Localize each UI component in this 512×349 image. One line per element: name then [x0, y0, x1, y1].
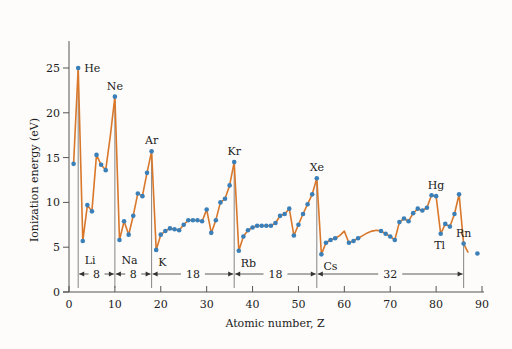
arrow-right-icon [228, 272, 233, 277]
data-point [273, 221, 278, 226]
data-point [131, 214, 136, 219]
data-point [438, 231, 443, 236]
arrow-left-icon [79, 272, 84, 277]
data-point [218, 200, 223, 205]
data-point [90, 209, 95, 214]
data-point [214, 218, 219, 223]
data-point [420, 208, 425, 213]
data-point [241, 234, 246, 239]
data-point [172, 227, 177, 232]
data-point [397, 220, 402, 225]
data-point [448, 224, 453, 229]
element-label-hg: Hg [428, 179, 445, 192]
ionization-energy-chart: 05101520250102030405060708090 88181832 H… [0, 0, 512, 349]
data-point [195, 218, 200, 223]
data-point [319, 252, 324, 257]
element-labels: HeNeArKrXeHgRnLiNaKRbCsTl [84, 62, 471, 273]
data-point [80, 239, 85, 244]
data-point [255, 223, 260, 228]
period-span: 32 [318, 268, 463, 281]
data-point [113, 94, 118, 99]
arrow-right-icon [458, 272, 463, 277]
data-point [333, 236, 338, 241]
data-point [140, 194, 145, 199]
x-tick-label: 10 [108, 298, 122, 311]
data-point [296, 223, 301, 228]
data-point [177, 228, 182, 233]
data-point [71, 162, 76, 167]
data-point [315, 176, 320, 181]
x-tick-label: 0 [66, 298, 73, 311]
period-span-label: 18 [186, 268, 200, 281]
data-point [250, 225, 255, 230]
data-point [117, 238, 122, 243]
data-point [223, 197, 228, 202]
data-point [103, 168, 108, 173]
data-point [443, 222, 448, 227]
data-point [429, 193, 434, 198]
data-point [126, 232, 131, 237]
period-span: 18 [235, 268, 316, 281]
data-point [475, 251, 480, 256]
data-point [282, 212, 287, 217]
data-point [305, 202, 310, 207]
element-label-tl: Tl [434, 239, 445, 252]
data-point [259, 223, 264, 228]
data-point [145, 171, 150, 176]
element-label-na: Na [121, 254, 138, 267]
x-tick-label: 80 [429, 298, 443, 311]
x-tick-label: 30 [200, 298, 214, 311]
data-point [393, 238, 398, 243]
period-span-label: 18 [269, 268, 283, 281]
data-point [402, 216, 407, 221]
data-point [287, 206, 292, 211]
element-label-xe: Xe [310, 161, 324, 174]
x-tick-label: 50 [291, 298, 305, 311]
data-point [434, 194, 439, 199]
period-span: 8 [79, 268, 114, 281]
element-label-cs: Cs [323, 260, 337, 273]
period-span-label: 32 [383, 268, 397, 281]
element-label-kr: Kr [227, 145, 241, 158]
arrow-left-icon [318, 272, 323, 277]
data-point [154, 248, 159, 253]
data-point [411, 211, 416, 216]
x-axis-label: Atomic number, Z [224, 317, 325, 330]
data-point [292, 233, 297, 238]
data-point [163, 229, 168, 234]
y-tick-label: 10 [46, 196, 60, 209]
x-tick-label: 40 [246, 298, 260, 311]
data-point [236, 248, 241, 253]
element-label-ne: Ne [107, 80, 123, 93]
y-tick-label: 20 [46, 107, 60, 120]
data-point [301, 212, 306, 217]
data-point [246, 228, 251, 233]
data-point [310, 192, 315, 197]
data-point [425, 205, 430, 210]
data-point [328, 238, 333, 243]
data-point [94, 153, 99, 158]
data-point [324, 240, 329, 245]
period-span-label: 8 [93, 268, 100, 281]
x-tick-label: 70 [383, 298, 397, 311]
y-tick-label: 15 [46, 152, 60, 165]
data-point [452, 212, 457, 217]
y-tick-label: 0 [53, 286, 60, 299]
x-tick-label: 20 [154, 298, 168, 311]
element-label-li: Li [85, 254, 96, 267]
arrow-right-icon [109, 272, 114, 277]
data-point [264, 223, 269, 228]
data-point [461, 241, 466, 246]
y-tick-label: 5 [53, 241, 60, 254]
data-point [351, 239, 356, 244]
data-point [200, 219, 205, 224]
period-span: 18 [153, 268, 234, 281]
data-point [122, 219, 127, 224]
data-point [99, 162, 104, 167]
arrow-left-icon [153, 272, 158, 277]
data-point [209, 231, 214, 236]
data-point [227, 183, 232, 188]
data-point-markers [71, 66, 479, 257]
data-point [181, 223, 186, 228]
period-span-arrows: 88181832 [79, 268, 462, 281]
